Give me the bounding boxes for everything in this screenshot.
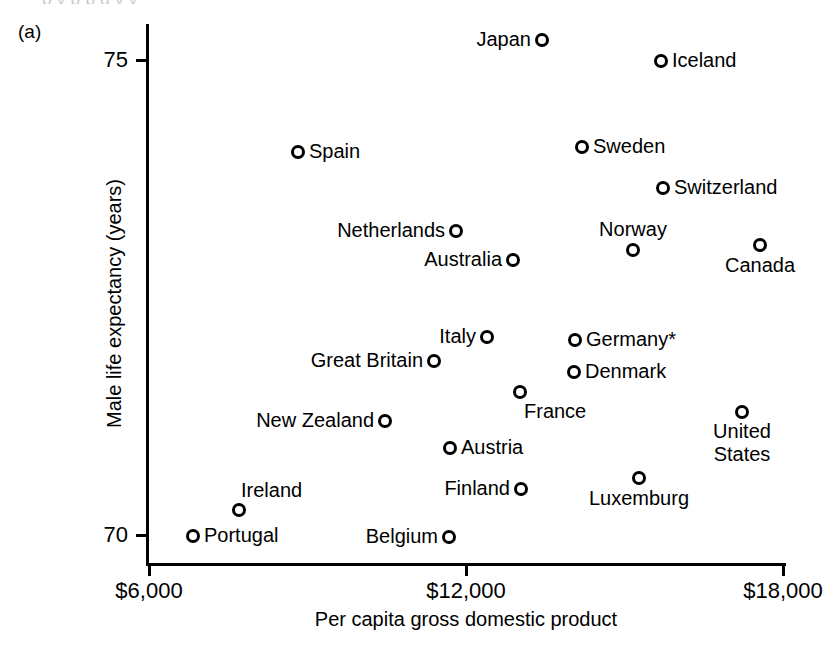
x-tick-label: $12,000 (406, 580, 526, 602)
point-label: Norway (599, 219, 667, 239)
x-tick-mark (782, 565, 785, 576)
circle-marker-icon (753, 238, 767, 252)
figure-panel: p y p p g y y (a) Male life expectancy (… (0, 0, 833, 651)
point-label: New Zealand (256, 410, 374, 430)
circle-marker-icon (568, 333, 582, 347)
point-label: Japan (477, 29, 532, 49)
point-label: Portugal (204, 525, 279, 545)
circle-marker-icon (575, 140, 589, 154)
point-label: Canada (725, 255, 795, 275)
point-label: Belgium (366, 526, 438, 546)
circle-marker-icon (480, 330, 494, 344)
y-tick-mark (136, 534, 146, 537)
circle-marker-icon (735, 405, 749, 419)
y-tick-label: 70 (76, 524, 128, 546)
point-label: Italy (439, 326, 476, 346)
x-tick-label: $6,000 (89, 580, 209, 602)
circle-marker-icon (506, 253, 520, 267)
circle-marker-icon (443, 441, 457, 455)
point-label: Denmark (585, 361, 666, 381)
point-label: Netherlands (337, 220, 445, 240)
circle-marker-icon (427, 354, 441, 368)
x-tick-label: $18,000 (723, 580, 833, 602)
circle-marker-icon (654, 54, 668, 68)
y-axis-line (146, 24, 149, 566)
point-label: Iceland (672, 50, 737, 70)
point-label: Germany* (586, 329, 676, 349)
y-axis-title: Male life expectancy (years) (103, 104, 126, 504)
circle-marker-icon (232, 503, 246, 517)
x-tick-mark (148, 565, 151, 576)
y-tick-mark (136, 59, 146, 62)
y-tick-label: 75 (76, 49, 128, 71)
scan-bleed-text: p y p p g y y (42, 0, 802, 4)
circle-marker-icon (442, 530, 456, 544)
circle-marker-icon (449, 224, 463, 238)
panel-letter: (a) (18, 22, 41, 41)
circle-marker-icon (291, 145, 305, 159)
point-label: Sweden (593, 136, 665, 156)
point-label: Great Britain (311, 350, 423, 370)
point-label: Spain (309, 141, 360, 161)
circle-marker-icon (626, 243, 640, 257)
circle-marker-icon (186, 529, 200, 543)
point-label: UnitedStates (713, 420, 771, 466)
x-axis-title: Per capita gross domestic product (146, 608, 786, 631)
circle-marker-icon (513, 385, 527, 399)
circle-marker-icon (535, 33, 549, 47)
point-label: Finland (444, 478, 510, 498)
circle-marker-icon (656, 181, 670, 195)
point-label: Austria (461, 437, 523, 457)
point-label: Luxemburg (589, 488, 689, 508)
x-tick-mark (465, 565, 468, 576)
point-label: Australia (424, 249, 502, 269)
circle-marker-icon (632, 471, 646, 485)
circle-marker-icon (378, 414, 392, 428)
point-label: Switzerland (674, 177, 777, 197)
circle-marker-icon (514, 482, 528, 496)
point-label: Ireland (241, 480, 302, 500)
circle-marker-icon (567, 365, 581, 379)
point-label: France (524, 401, 586, 421)
